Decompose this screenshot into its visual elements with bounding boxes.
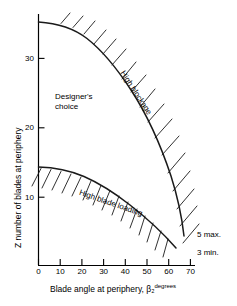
x-tick-label-70: 70 xyxy=(186,268,195,276)
x-tick-label-50: 50 xyxy=(143,268,152,276)
x-axis-title-text: Blade angle at periphery, β₂ xyxy=(50,284,154,294)
chart-figure: 0 10 20 30 40 50 60 70 10 20 30 Z number… xyxy=(0,0,237,306)
plot-area xyxy=(0,0,237,306)
x-tick-label-10: 10 xyxy=(56,268,65,276)
x-tick-label-20: 20 xyxy=(77,268,86,276)
y-axis-title: Z number of blades at periphery xyxy=(14,128,23,248)
x-tick-label-60: 60 xyxy=(164,268,173,276)
x-axis-ticks xyxy=(39,259,191,265)
designers-choice-line2: choice xyxy=(55,102,93,112)
x-tick-label-40: 40 xyxy=(121,268,130,276)
x-axis-title: Blade angle at periphery, β₂degrees xyxy=(50,283,176,293)
hatch-high-blade-loading xyxy=(32,169,168,258)
x-axis-units: degrees xyxy=(154,283,176,289)
x-tick-label-0: 0 xyxy=(36,268,40,276)
annotation-3-min: 3 min. xyxy=(197,248,219,258)
x-tick-label-30: 30 xyxy=(99,268,108,276)
y-axis-ticks xyxy=(39,58,45,197)
curve-high-blade-loading xyxy=(39,167,177,248)
annotation-5-max: 5 max. xyxy=(197,230,221,240)
y-tick-label-30: 30 xyxy=(18,55,34,63)
annotation-designers-choice: Designer's choice xyxy=(55,92,93,112)
designers-choice-line1: Designer's xyxy=(55,92,93,102)
